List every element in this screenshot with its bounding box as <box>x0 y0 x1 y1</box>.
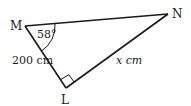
vertex-label-l: L <box>61 93 69 106</box>
side-label-ml: 200 cm <box>12 54 54 67</box>
angle-label-m: 58° <box>37 28 57 41</box>
side-mn <box>25 14 168 26</box>
triangle-diagram: M N L 58° 200 cm x cm <box>0 0 191 106</box>
vertex-label-m: M <box>10 19 22 33</box>
side-label-ln: x cm <box>116 54 142 67</box>
vertex-label-n: N <box>172 7 183 21</box>
right-angle-marker <box>61 75 75 83</box>
side-ln <box>66 14 168 88</box>
